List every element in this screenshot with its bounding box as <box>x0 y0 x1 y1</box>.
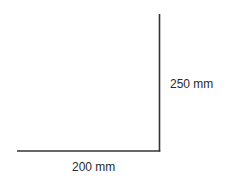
vertical-dimension-label: 250 mm <box>170 77 213 91</box>
angle-drawing <box>0 0 228 186</box>
diagram-canvas: 250 mm 200 mm <box>0 0 228 186</box>
horizontal-dimension-label: 200 mm <box>72 160 115 174</box>
